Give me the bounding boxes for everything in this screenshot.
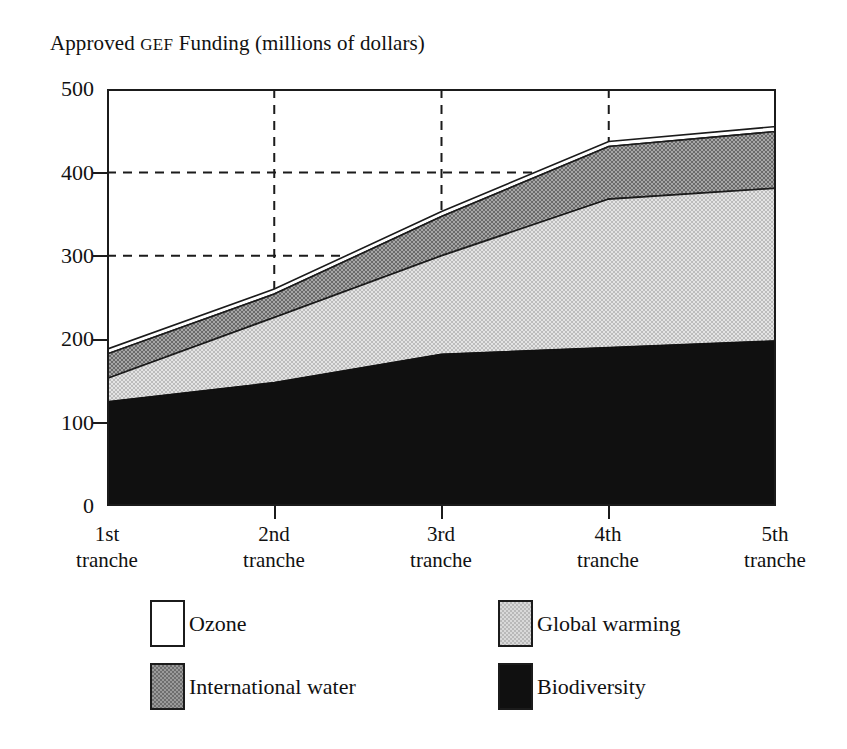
plot-area [107, 89, 776, 506]
x-tick-label-1-line1: 1st [32, 521, 182, 547]
x-tick-label-4: 4th tranche [533, 521, 683, 573]
legend-item-biodiversity: Biodiversity [498, 663, 646, 710]
legend-label-international-water: International water [189, 675, 356, 699]
y-tick-label-0: 0 [24, 495, 94, 517]
y-tick-label-500: 500 [24, 78, 94, 100]
legend-swatch-global-warming [498, 600, 533, 647]
y-axis: 500 400 300 200 100 0 [16, 0, 94, 749]
y-tick-mark-400 [93, 172, 108, 174]
x-tick-label-2-line2: tranche [199, 547, 349, 573]
y-tick-label-400: 400 [24, 162, 94, 184]
x-tick-label-3-line1: 3rd [366, 521, 516, 547]
legend-swatch-international-water [150, 663, 185, 710]
legend-item-ozone: Ozone [150, 600, 246, 647]
legend-label-biodiversity: Biodiversity [537, 675, 646, 699]
legend-label-global-warming: Global warming [537, 612, 681, 636]
chart-title-smallcaps: GEF [140, 35, 173, 54]
chart-legend: Ozone Global warming International water… [150, 600, 770, 720]
x-tick-label-2-line1: 2nd [199, 521, 349, 547]
x-tick-label-1-line2: tranche [32, 547, 182, 573]
y-tick-label-200: 200 [24, 328, 94, 350]
legend-item-global-warming: Global warming [498, 600, 681, 647]
x-tick-mark-4 [608, 506, 610, 519]
y-tick-label-300: 300 [24, 245, 94, 267]
y-tick-label-100: 100 [24, 412, 94, 434]
legend-item-international-water: International water [150, 663, 356, 710]
chart-figure: Approved GEF Funding (millions of dollar… [0, 0, 847, 749]
y-tick-mark-100 [93, 422, 108, 424]
stacked-area-plot [107, 89, 776, 506]
x-tick-mark-3 [441, 506, 443, 519]
y-tick-mark-200 [93, 339, 108, 341]
x-tick-label-5-line2: tranche [700, 547, 847, 573]
x-axis: 1st tranche 2nd tranche 3rd tranche 4th … [0, 521, 847, 587]
legend-swatch-ozone [150, 600, 185, 647]
x-tick-label-1: 1st tranche [32, 521, 182, 573]
x-tick-label-3-line2: tranche [366, 547, 516, 573]
x-tick-label-4-line2: tranche [533, 547, 683, 573]
x-tick-label-3: 3rd tranche [366, 521, 516, 573]
legend-label-ozone: Ozone [189, 612, 246, 636]
chart-title: Approved GEF Funding (millions of dollar… [50, 31, 425, 56]
chart-title-after: Funding (millions of dollars) [173, 31, 425, 55]
x-tick-label-5: 5th tranche [700, 521, 847, 573]
y-tick-mark-300 [93, 255, 108, 257]
x-tick-label-2: 2nd tranche [199, 521, 349, 573]
x-tick-label-4-line1: 4th [533, 521, 683, 547]
x-tick-label-5-line1: 5th [700, 521, 847, 547]
x-tick-mark-2 [274, 506, 276, 519]
legend-swatch-biodiversity [498, 663, 533, 710]
